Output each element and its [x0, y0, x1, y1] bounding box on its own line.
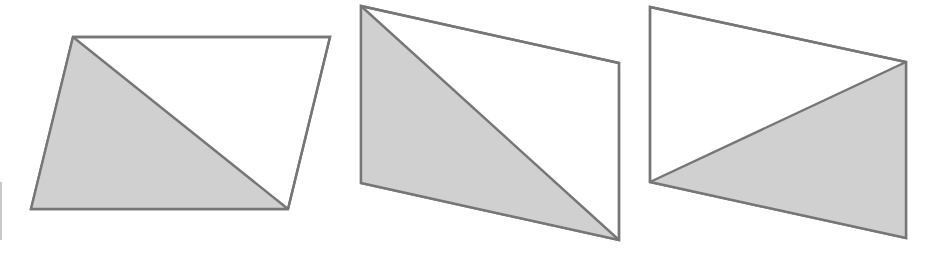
parallelogram-2	[361, 6, 619, 240]
parallelogram-1	[31, 37, 330, 209]
parallelogram-figure	[0, 0, 926, 257]
parallelogram-3	[650, 7, 906, 238]
